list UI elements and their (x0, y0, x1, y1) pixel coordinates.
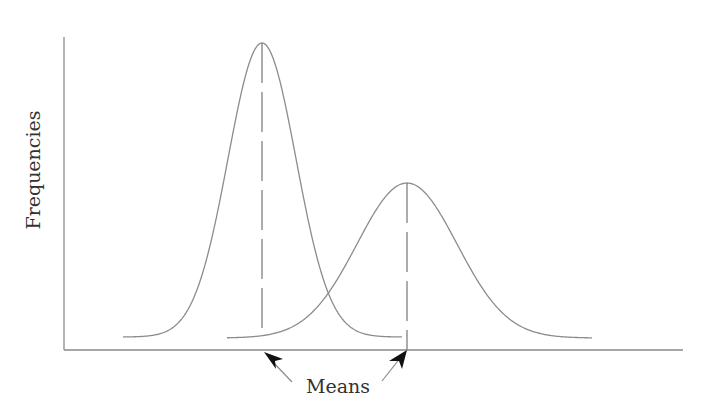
arrow-right-icon (389, 350, 407, 369)
means-label: Means (306, 375, 370, 397)
distribution-curve-wide (227, 183, 592, 338)
distribution-figure: Frequencies Means (0, 0, 708, 411)
y-axis-label: Frequencies (22, 110, 44, 229)
means-annotation: Means (264, 350, 407, 397)
arrow-left-icon (264, 352, 283, 369)
